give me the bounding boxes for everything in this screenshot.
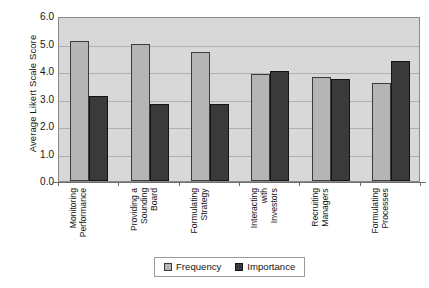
x-category-label: InteractingwithInvestors bbox=[249, 188, 280, 228]
x-tick-mark bbox=[58, 182, 59, 186]
legend-entry-importance: Importance bbox=[235, 262, 295, 272]
x-tick-mark bbox=[179, 182, 180, 186]
bar-importance bbox=[210, 104, 229, 181]
bar-frequency bbox=[251, 74, 270, 181]
legend-label-frequency: Frequency bbox=[176, 262, 221, 272]
x-category-label-line: Monitoring bbox=[68, 188, 78, 237]
y-tick-label: 6.0 bbox=[22, 12, 54, 22]
x-tick-mark bbox=[118, 182, 119, 186]
x-tick-mark bbox=[299, 182, 300, 186]
x-category-label-line: Providing a bbox=[129, 188, 139, 231]
x-category-label: FormulatingProcesses bbox=[370, 188, 390, 233]
bar-frequency bbox=[191, 52, 210, 181]
y-tick-label: 2.0 bbox=[22, 122, 54, 132]
y-tick-label: 3.0 bbox=[22, 95, 54, 105]
y-tick-label: 4.0 bbox=[22, 67, 54, 77]
x-category-label-line: Formulating bbox=[370, 188, 380, 233]
x-tick-mark bbox=[420, 182, 421, 186]
y-tick-label: 0.0 bbox=[22, 177, 54, 187]
bars-layer bbox=[59, 18, 419, 181]
x-category-label-line: Sounding bbox=[139, 188, 149, 231]
x-category-label-line: Board bbox=[149, 188, 159, 231]
x-category-label-line: Formulating bbox=[189, 188, 199, 233]
bar-importance bbox=[270, 71, 289, 181]
x-category-label-line: with bbox=[259, 188, 269, 228]
chart-legend: Frequency Importance bbox=[154, 257, 305, 277]
x-category-label: MonitoringPerformance bbox=[68, 188, 88, 237]
bar-frequency bbox=[131, 44, 150, 182]
legend-swatch-frequency-icon bbox=[164, 263, 172, 271]
x-category-label-line: Managers bbox=[320, 188, 330, 227]
plot-area bbox=[58, 17, 420, 182]
bar-frequency bbox=[70, 41, 89, 181]
x-axis-category-labels: MonitoringPerformanceProviding aSounding… bbox=[58, 188, 420, 244]
bar-importance bbox=[150, 104, 169, 181]
x-category-label-line: Investors bbox=[270, 188, 280, 228]
bar-importance bbox=[89, 96, 108, 181]
x-category-label-line: Processes bbox=[380, 188, 390, 233]
x-category-label-line: Interacting bbox=[249, 188, 259, 228]
bar-importance bbox=[391, 61, 410, 181]
y-tick-label: 5.0 bbox=[22, 40, 54, 50]
x-category-label: Providing aSoundingBoard bbox=[129, 188, 160, 231]
x-tick-mark bbox=[239, 182, 240, 186]
legend-swatch-importance-icon bbox=[235, 263, 243, 271]
bar-frequency bbox=[372, 83, 391, 181]
bar-importance bbox=[331, 79, 350, 181]
legend-label-importance: Importance bbox=[247, 262, 295, 272]
x-category-label: FormulatingStrategy bbox=[189, 188, 209, 233]
x-tick-mark bbox=[360, 182, 361, 186]
x-category-label-line: Performance bbox=[78, 188, 88, 237]
x-category-label: RecruitingManagers bbox=[310, 188, 330, 227]
bar-frequency bbox=[312, 77, 331, 182]
bar-chart: Average Likert Scale Score 6.05.04.03.02… bbox=[0, 0, 429, 288]
legend-entry-frequency: Frequency bbox=[164, 262, 221, 272]
y-axis-tick-labels: 6.05.04.03.02.01.00.0 bbox=[22, 11, 54, 187]
y-tick-label: 1.0 bbox=[22, 150, 54, 160]
x-category-label-line: Strategy bbox=[199, 188, 209, 233]
x-category-label-line: Recruiting bbox=[310, 188, 320, 227]
